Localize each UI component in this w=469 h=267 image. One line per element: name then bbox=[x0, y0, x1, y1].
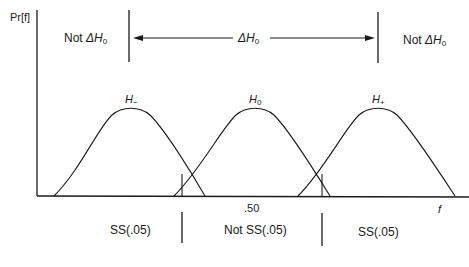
subscript: 0 bbox=[255, 37, 259, 46]
h-text: H bbox=[125, 93, 133, 105]
not-text: Not bbox=[64, 31, 86, 45]
ss-text: SS(.05) bbox=[110, 223, 151, 237]
y-axis-label-text: Pr[f] bbox=[10, 11, 30, 23]
not-ss-text: Not SS(.05) bbox=[224, 223, 287, 237]
y-axis-label: Pr[f] bbox=[10, 10, 30, 24]
x-axis-tick-label: .50 bbox=[244, 201, 259, 215]
delta-h-symbol: ΔH bbox=[425, 33, 442, 47]
curve-label-h-minus: H− bbox=[125, 92, 138, 110]
x-axis bbox=[37, 196, 469, 197]
bottom-region-right-label: SS(.05) bbox=[358, 225, 399, 239]
not-text: Not bbox=[403, 33, 425, 47]
arrowhead-right-icon bbox=[365, 35, 375, 41]
top-region-left-label: Not ΔH0 bbox=[64, 31, 107, 49]
curve-label-h-plus: H+ bbox=[372, 92, 385, 110]
x-axis-label-text: f bbox=[438, 203, 441, 215]
top-region-center-label: ΔH0 bbox=[238, 31, 259, 49]
h-text: H bbox=[249, 93, 257, 105]
delta-h-symbol: ΔH bbox=[238, 31, 255, 45]
x-axis-label: f bbox=[438, 202, 441, 216]
subscript: 0 bbox=[103, 37, 107, 46]
subscript: − bbox=[133, 98, 138, 107]
bottom-region-left-label: SS(.05) bbox=[110, 223, 151, 237]
subscript: + bbox=[380, 98, 385, 107]
subscript: 0 bbox=[257, 98, 261, 107]
top-region-right-label: Not ΔH0 bbox=[403, 33, 446, 51]
h-text: H bbox=[372, 93, 380, 105]
x-tick-text: .50 bbox=[244, 202, 259, 214]
ss-text: SS(.05) bbox=[358, 225, 399, 239]
delta-h-symbol: ΔH bbox=[86, 31, 103, 45]
bottom-region-center-label: Not SS(.05) bbox=[224, 223, 287, 237]
curve-label-h-zero: H0 bbox=[249, 92, 261, 110]
arrowhead-left-icon bbox=[133, 35, 143, 41]
subscript: 0 bbox=[442, 39, 446, 48]
